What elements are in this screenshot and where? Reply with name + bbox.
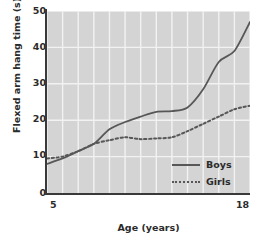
- x-axis-tick-18: 18: [236, 200, 249, 210]
- legend-label-boys: Boys: [206, 160, 232, 170]
- y-axis-label: Flexed arm hang time (s): [11, 0, 22, 146]
- y-axis-tick-40: 40: [22, 42, 46, 52]
- series-line-boys: [47, 22, 250, 164]
- legend-swatch-girls: [172, 181, 200, 183]
- y-axis-tick-50: 50: [22, 6, 46, 16]
- legend-label-girls: Girls: [206, 177, 231, 187]
- x-axis-tick-5: 5: [50, 200, 57, 210]
- y-axis-tick-30: 30: [22, 78, 46, 88]
- chart-figure: Flexed arm hang time (s) 50 40 30 20 10 …: [0, 0, 260, 241]
- x-axis-label: Age (years): [47, 222, 250, 233]
- y-axis-tick-20: 20: [22, 114, 46, 124]
- horizontal-gridlines: [47, 11, 250, 157]
- legend-swatch-boys: [172, 164, 200, 166]
- y-axis-tick-0: 0: [22, 188, 46, 198]
- y-axis-tick-10: 10: [22, 150, 46, 160]
- x-axis-line: [45, 193, 250, 195]
- y-axis-line: [45, 9, 47, 195]
